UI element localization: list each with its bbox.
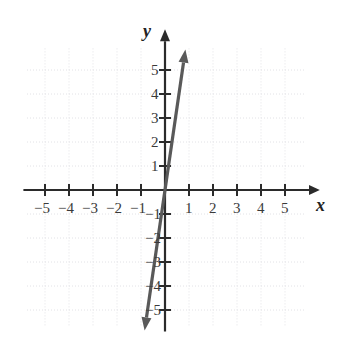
y-tick-label: −2 [145,231,161,246]
x-tick-label: −1 [130,201,146,216]
x-axis-label: x [316,196,325,214]
x-tick-label: −3 [82,201,98,216]
y-axis-label: y [143,22,151,40]
x-tick-label: 4 [257,201,265,216]
y-tick-label: 5 [151,63,159,78]
x-tick-label: 2 [209,201,217,216]
y-tick-label: −1 [145,207,161,222]
y-tick-label: 1 [151,159,159,174]
x-tick-label: 3 [233,201,241,216]
graph-canvas [0,0,340,355]
y-tick-label: 4 [151,87,159,102]
y-tick-label: 2 [151,135,159,150]
x-tick-label: −2 [106,201,122,216]
y-tick-label: −3 [145,255,161,270]
x-tick-label: 1 [185,201,193,216]
x-tick-label: −4 [58,201,74,216]
coordinate-plane-graph: −5−4−3−2−112345 54321−1−2−3−4−5 x y [0,0,340,355]
y-tick-label: −4 [145,279,161,294]
y-tick-label: −5 [145,303,161,318]
x-tick-label: −5 [34,201,50,216]
y-tick-label: 3 [151,111,159,126]
x-tick-label: 5 [281,201,289,216]
